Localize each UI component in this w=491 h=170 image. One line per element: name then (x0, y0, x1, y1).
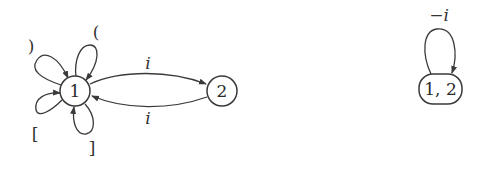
edge-1-to-2 (90, 74, 206, 85)
loop-close-bracket (74, 104, 94, 134)
loop-open-bracket (36, 93, 62, 114)
state-1-label: 1 (70, 81, 81, 101)
right-automaton: 1, 2 −i (419, 5, 462, 104)
edge-label-1-to-2: i (145, 53, 150, 73)
edge-2-to-1 (92, 96, 207, 107)
automata-diagram: 1 2 ) ( [ ] i i 1, 2 −i (0, 0, 491, 170)
edge-label-2-to-1: i (145, 108, 150, 128)
loop-minus-i (425, 29, 455, 74)
loop-label-close-bracket: ] (89, 138, 96, 158)
loop-label-open-paren: ( (93, 22, 100, 42)
loop-open-paren (76, 45, 97, 80)
loop-label-open-bracket: [ (32, 124, 39, 144)
loop-label-close-paren: ) (28, 36, 35, 56)
state-2-label: 2 (217, 81, 228, 101)
left-automaton: 1 2 ) ( [ ] i i (28, 22, 237, 158)
loop-label-minus-i: −i (429, 5, 449, 25)
loop-close-paren (35, 55, 68, 85)
state-1-2-label: 1, 2 (424, 79, 456, 99)
